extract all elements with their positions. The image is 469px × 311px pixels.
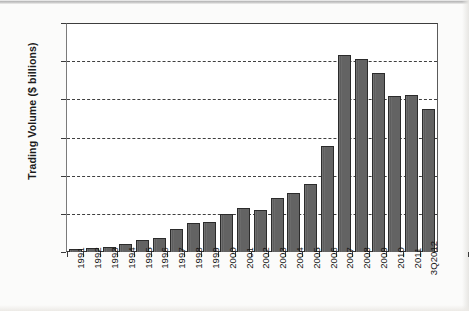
plot-area bbox=[66, 23, 438, 252]
x-label-slot: 3Q2012 bbox=[420, 258, 437, 308]
x-label-slot: 2000 bbox=[218, 258, 235, 308]
x-label-slot: 1997 bbox=[168, 258, 185, 308]
x-label-slot: 2002 bbox=[252, 258, 269, 308]
x-label-slot: 1999 bbox=[202, 258, 219, 308]
x-label-slot: 2011 bbox=[403, 258, 420, 308]
x-label-slot: 1991 bbox=[67, 258, 84, 308]
x-label-slot: 2004 bbox=[286, 258, 303, 308]
x-label-slot: 2010 bbox=[386, 258, 403, 308]
x-label-slot: 2007 bbox=[336, 258, 353, 308]
x-label-slot: 2006 bbox=[319, 258, 336, 308]
x-label-slot: 2008 bbox=[353, 258, 370, 308]
bar-chart-figure: Trading Volume ($ billions) 600500400300… bbox=[0, 0, 469, 311]
x-tick-mark-1991 bbox=[67, 252, 68, 257]
x-label-slot: 1994 bbox=[117, 258, 134, 308]
y-axis-title: Trading Volume ($ billions) bbox=[26, 11, 38, 211]
x-label-slot: 1992 bbox=[84, 258, 101, 308]
gridline-400 bbox=[67, 99, 437, 100]
gridline-300 bbox=[67, 138, 437, 139]
x-label-slot: 2003 bbox=[269, 258, 286, 308]
x-label-slot: 2001 bbox=[235, 258, 252, 308]
gridline-500 bbox=[67, 61, 437, 62]
x-label-slot: 1995 bbox=[134, 258, 151, 308]
gridline-200 bbox=[67, 176, 437, 177]
x-label-slot: 2009 bbox=[370, 258, 387, 308]
x-axis-label-3Q2012: 3Q2012 bbox=[428, 241, 439, 275]
x-label-slot: 1993 bbox=[101, 258, 118, 308]
x-label-slot: 1998 bbox=[185, 258, 202, 308]
x-label-slot: 1996 bbox=[151, 258, 168, 308]
x-axis-tick-labels: 1991199219931994199519961997199819992000… bbox=[66, 258, 438, 308]
gridline-100 bbox=[67, 214, 437, 215]
x-label-slot: 2005 bbox=[302, 258, 319, 308]
